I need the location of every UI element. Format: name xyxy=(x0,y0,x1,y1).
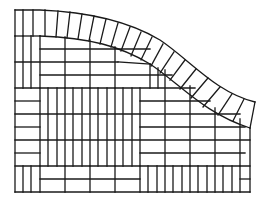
pattern-drawing xyxy=(0,0,272,208)
basketweave-field xyxy=(15,36,250,192)
paving-pattern-diagram xyxy=(0,0,272,208)
curved-border-band xyxy=(15,10,255,128)
